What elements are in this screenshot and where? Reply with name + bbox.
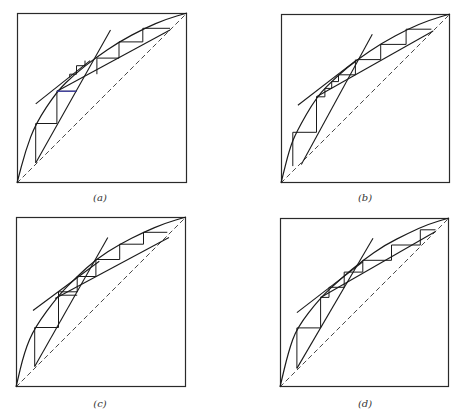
diagram-a <box>17 13 187 183</box>
staircase-steps <box>363 230 436 260</box>
stripping-operating-line <box>35 237 108 366</box>
panel-label-d: (d) <box>345 398 385 409</box>
stripping-operating-line <box>36 30 111 163</box>
diagonal-line <box>280 218 449 387</box>
pinch-tangent-line <box>298 60 357 106</box>
diagram-c <box>16 217 186 387</box>
diagram-d <box>280 218 449 387</box>
panel-d <box>280 218 449 387</box>
panel-b <box>281 14 450 183</box>
panel-a <box>17 13 187 183</box>
diagram-b <box>281 14 450 183</box>
panel-label-c: (c) <box>80 398 120 409</box>
rectifying-operating-line <box>57 30 170 91</box>
rectifying-operating-line <box>55 237 169 298</box>
rectifying-operating-line <box>317 31 434 97</box>
pinch-tangent-line <box>36 61 90 104</box>
panel-c <box>16 217 186 387</box>
staircase-steps <box>293 88 325 166</box>
panel-label-a: (a) <box>80 192 120 203</box>
stripping-operating-line <box>301 34 372 164</box>
staircase-steps <box>297 287 329 368</box>
staircase-steps <box>96 232 167 259</box>
panel-label-b: (b) <box>345 192 385 203</box>
staircase-steps <box>357 29 431 59</box>
pinch-tangent-line <box>33 261 99 310</box>
